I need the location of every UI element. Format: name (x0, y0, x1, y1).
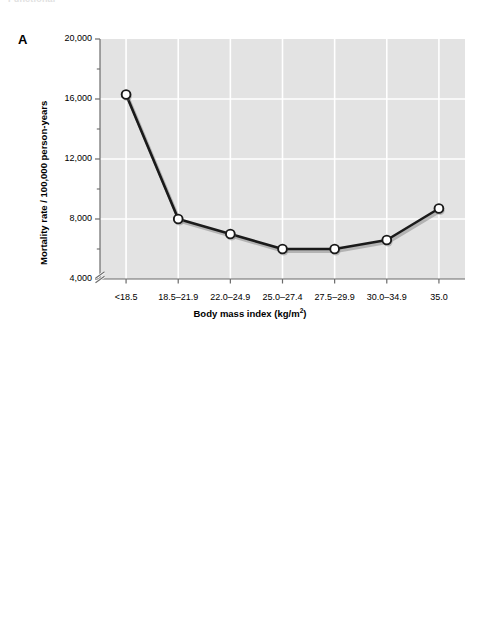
x-tick-label: 35.0 (394, 293, 484, 302)
chart-panel-b: B Men with functional decline (%) 010203… (0, 325, 500, 637)
x-axis-title-a-main: Body mass index (kg/m (194, 308, 300, 319)
y-tick-label: 16,000 (0, 94, 92, 103)
x-axis-title-a: Body mass index (kg/m2) (0, 308, 500, 319)
y-tick-label: 12,000 (0, 154, 92, 163)
y-tick-label: 4,000 (0, 274, 92, 283)
y-tick-label: 20,000 (0, 34, 92, 43)
x-axis-title-a-end: ) (303, 308, 306, 319)
y-tick-label: 8,000 (0, 214, 92, 223)
chart-panel-a: A Mortality rate / 100,000 person-years … (0, 0, 500, 325)
